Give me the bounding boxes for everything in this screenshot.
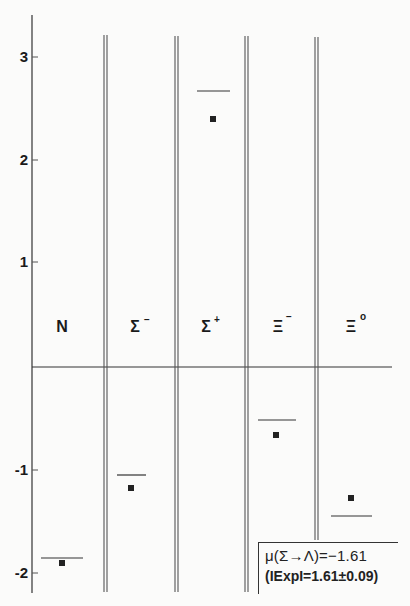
- y-ticks: [32, 57, 38, 573]
- label-xi-zero-sup: o: [360, 311, 366, 322]
- marker-xi-minus: [273, 432, 279, 438]
- annotation-experimental: (IExpI=1.61±0.09): [265, 568, 398, 584]
- label-sigma-minus-sup: −: [144, 314, 150, 325]
- label-xi-minus: Ξ: [273, 318, 283, 335]
- category-labels: N Σ − Σ + Ξ − Ξ o: [56, 311, 366, 335]
- label-xi-minus-sup: −: [286, 311, 292, 322]
- label-sigma-plus-sup: +: [214, 314, 220, 325]
- magnetic-moment-chart: 3 2 1 -1 -2 N Σ − Σ + Ξ − Ξ o: [0, 0, 410, 606]
- tick-label-2: 2: [20, 151, 28, 168]
- label-sigma-minus: Σ: [130, 318, 140, 335]
- y-tick-labels: 3 2 1 -1 -2: [15, 48, 28, 581]
- measured-markers: [59, 116, 354, 566]
- label-n: N: [56, 318, 68, 335]
- marker-sigma-plus: [210, 116, 216, 122]
- marker-sigma-minus: [128, 485, 134, 491]
- annotation-box: μ(Σ→Λ)=−1.61 (IExpI=1.61±0.09): [258, 542, 398, 594]
- tick-label-1: 1: [20, 253, 28, 270]
- tick-label-minus-1: -1: [15, 461, 28, 478]
- tick-label-minus-2: -2: [15, 564, 28, 581]
- label-sigma-plus: Σ: [201, 318, 211, 335]
- marker-n: [59, 560, 65, 566]
- label-xi-zero: Ξ: [346, 318, 356, 335]
- tick-label-3: 3: [20, 48, 28, 65]
- marker-xi-zero: [348, 495, 354, 501]
- annotation-mu-sigma-lambda: μ(Σ→Λ)=−1.61: [265, 547, 398, 564]
